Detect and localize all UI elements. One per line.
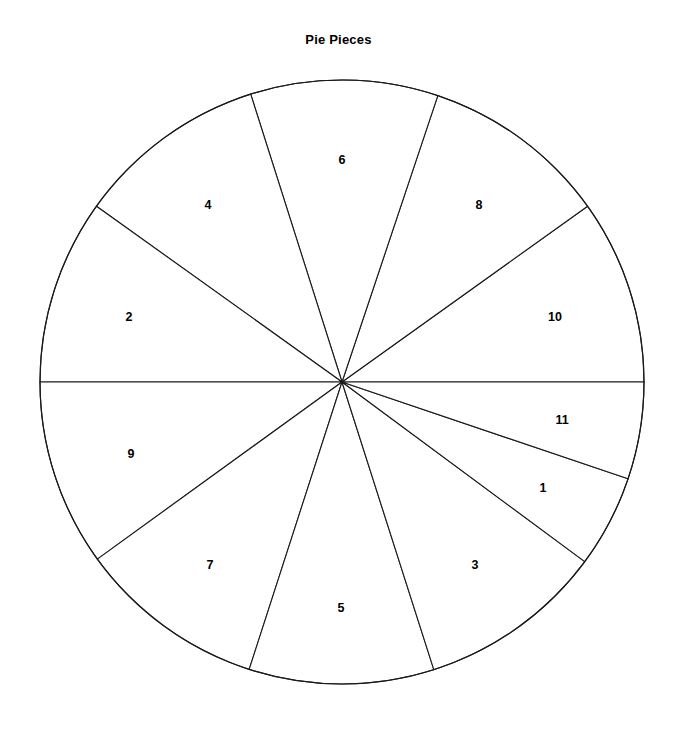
pie-slice-label-7: 7 — [207, 558, 214, 572]
pie-slice-label-3: 3 — [472, 558, 479, 572]
pie-slices-group — [40, 80, 644, 684]
pie-slice-label-1: 1 — [540, 481, 547, 495]
pie-slice-label-6: 6 — [339, 153, 346, 167]
pie-slice-label-9: 9 — [128, 447, 135, 461]
pie-slice-label-4: 4 — [205, 198, 212, 212]
pie-slice-label-10: 10 — [548, 310, 562, 324]
pie-chart-canvas: 1086429753111 — [0, 0, 677, 733]
pie-slice-label-11: 11 — [555, 413, 568, 427]
pie-slice-label-8: 8 — [476, 198, 483, 212]
pie-chart-figure: Pie Pieces 1086429753111 — [0, 0, 677, 733]
pie-slice-label-5: 5 — [338, 601, 345, 615]
pie-slice-label-2: 2 — [126, 310, 133, 324]
